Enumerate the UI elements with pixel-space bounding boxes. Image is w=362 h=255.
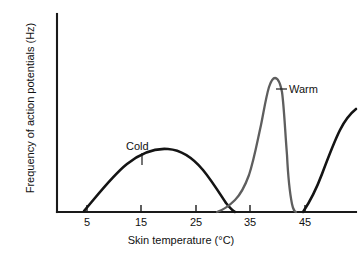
x-tick-label-35: 35 <box>230 216 270 228</box>
series-label-cold: Cold <box>126 140 149 152</box>
curve-heat <box>303 109 356 212</box>
thermoreceptor-response-chart: 5 15 25 35 45 Skin temperature (°C) Freq… <box>0 0 362 255</box>
series-label-warm: Warm <box>289 83 318 95</box>
curve-cold <box>84 149 235 212</box>
y-axis-title: Frequency of action potentials (Hz) <box>24 8 36 208</box>
x-tick-label-25: 25 <box>176 216 216 228</box>
x-tick-label-15: 15 <box>121 216 161 228</box>
x-tick-label-45: 45 <box>285 216 325 228</box>
x-axis-title: Skin temperature (°C) <box>0 234 362 246</box>
x-tick-label-5: 5 <box>67 216 107 228</box>
curve-warm <box>217 78 296 212</box>
